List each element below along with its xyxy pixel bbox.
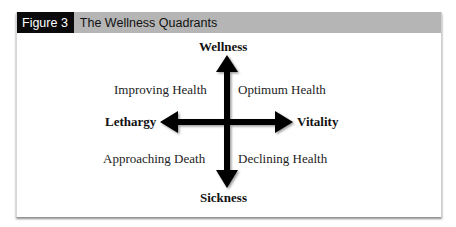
down-arrowhead-icon: [216, 170, 238, 188]
axis-arrows: [0, 0, 456, 227]
left-arrowhead-icon: [160, 111, 178, 133]
up-arrowhead-icon: [216, 55, 238, 72]
right-arrowhead-icon: [275, 111, 293, 133]
horizontal-arrow-shaft: [176, 119, 278, 125]
